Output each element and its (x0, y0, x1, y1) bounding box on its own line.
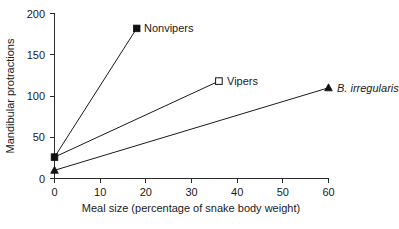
series-nonvipers-marker-end (133, 25, 140, 32)
y-tick-label-200: 200 (27, 8, 45, 20)
series-nonvipers-label: Nonvipers (144, 22, 194, 34)
series-vipers: Vipers (55, 75, 259, 157)
y-tick-label-150: 150 (27, 49, 45, 61)
y-tick-label-100: 100 (27, 90, 45, 102)
series-b-irregularis-label: B. irregularis (337, 82, 399, 94)
series-b-irregularis-marker-end (325, 84, 333, 91)
chart-figure: 200 150 100 50 0 0 10 20 30 40 50 60 M (0, 0, 399, 229)
x-tick-label-60: 60 (322, 186, 334, 198)
x-tick-label-30: 30 (185, 186, 197, 198)
y-axis-title: Mandibular protractions (4, 38, 16, 153)
x-tick-marks (55, 179, 329, 184)
series-b-irregularis: B. irregularis (51, 82, 399, 173)
x-tick-label-50: 50 (277, 186, 289, 198)
y-tick-label-50: 50 (33, 131, 45, 143)
series-b-irregularis-line (55, 88, 329, 171)
y-tick-label-0: 0 (39, 173, 45, 185)
line-chart: 200 150 100 50 0 0 10 20 30 40 50 60 M (0, 0, 399, 229)
x-tick-label-40: 40 (231, 186, 243, 198)
series-vipers-marker-end (216, 78, 223, 85)
x-tick-label-10: 10 (94, 186, 106, 198)
y-tick-labels: 200 150 100 50 0 (27, 8, 45, 185)
x-tick-labels: 0 10 20 30 40 50 60 (51, 186, 334, 198)
x-axis-title: Meal size (percentage of snake body weig… (82, 202, 300, 214)
series-nonvipers: Nonvipers (51, 22, 194, 160)
x-tick-label-0: 0 (51, 186, 57, 198)
x-tick-label-20: 20 (140, 186, 152, 198)
series-vipers-label: Vipers (227, 75, 258, 87)
axes-group (55, 13, 329, 179)
